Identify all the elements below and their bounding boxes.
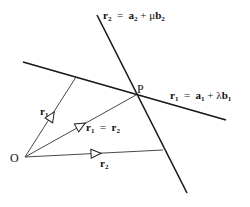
point-O-label: O (10, 152, 19, 164)
line-1-equation: r1 = a1 + λb1 (170, 90, 231, 103)
vector-r1-label: r1 (40, 106, 48, 119)
line-2 (97, 15, 187, 193)
point-P-label: P (137, 83, 144, 95)
line-2-equation: r2 = a2 + μb2 (103, 10, 165, 23)
vector-r1-eq-r2-label: r1 = r2 (86, 122, 120, 135)
vector-r2-label: r2 (100, 158, 108, 171)
diagram-svg (0, 0, 250, 207)
diagram-canvas: r2 = a2 + μb2 r1 = a1 + λb1 P O r1 r1 = … (0, 0, 250, 207)
